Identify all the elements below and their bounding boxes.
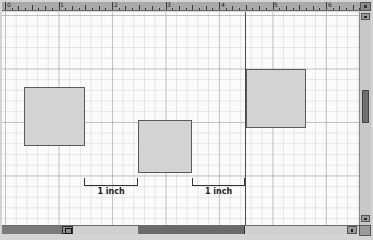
ruler-tick [333,8,334,10]
ruler-corner-button[interactable] [360,2,371,11]
horizontal-ruler[interactable]: 0123456 [2,2,360,11]
ruler-tick [52,8,53,10]
drawing-window: 0123456 1 inch1 inch [0,0,373,240]
ruler-tick [293,8,294,10]
vertical-scrollbar[interactable] [359,12,371,225]
ruler-tick [72,6,73,10]
ruler-tick [25,8,26,10]
ruler-tick [192,5,193,10]
ruler-tick [139,5,140,10]
ruler-tick [85,5,86,10]
ruler-tick [79,8,80,10]
ruler-tick [313,6,314,10]
scroll-down-arrow-icon[interactable] [361,215,370,222]
page-indicator-area [2,226,62,234]
vertical-scroll-thumb[interactable] [362,90,369,123]
ruler-tick [112,2,113,10]
ruler-tick [286,6,287,10]
dimension-bracket[interactable] [192,178,245,186]
ruler-tick [306,8,307,10]
ruler-tick [339,6,340,10]
ruler-label: 6 [328,2,332,8]
ruler-tick [186,8,187,10]
ruler-label: 4 [221,2,225,8]
page-view-button[interactable] [62,226,73,234]
ruler-tick [179,6,180,10]
scroll-up-arrow-icon[interactable] [361,13,370,20]
square-3[interactable] [246,69,306,128]
ruler-tick [12,8,13,10]
ruler-label: 1 [60,2,64,8]
ruler-tick [119,8,120,10]
dimension-label: 1 inch [81,187,141,196]
ruler-label: 5 [274,2,278,8]
ruler-label: 0 [7,2,11,8]
resize-grip-icon[interactable] [359,225,371,236]
ruler-tick [132,8,133,10]
ruler-tick [172,8,173,10]
ruler-tick [212,8,213,10]
ruler-tick [246,5,247,10]
ruler-tick [125,6,126,10]
ruler-tick [92,8,93,10]
ruler-tick [259,6,260,10]
drawing-canvas[interactable]: 1 inch1 inch [2,12,359,225]
dimension-label: 1 inch [189,187,249,196]
ruler-tick [239,8,240,10]
ruler-tick [252,8,253,10]
ruler-tick [152,6,153,10]
ruler-tick [65,8,66,10]
ruler-tick [266,8,267,10]
ruler-tick [353,5,354,10]
ruler-tick [232,6,233,10]
ruler-tick [219,2,220,10]
ruler-tick [5,2,6,10]
ruler-tick [159,8,160,10]
ruler-tick [32,5,33,10]
dimension-bracket[interactable] [84,178,138,186]
ruler-tick [326,2,327,10]
ruler-tick [319,8,320,10]
scroll-right-arrow-icon[interactable] [347,226,357,234]
ruler-tick [226,8,227,10]
ruler-tick [38,8,39,10]
ruler-tick [105,8,106,10]
ruler-tick [45,6,46,10]
ruler-tick [199,8,200,10]
ruler-tick [206,6,207,10]
ruler-tick [279,8,280,10]
square-1[interactable] [24,87,85,146]
ruler-tick [346,8,347,10]
horizontal-scroll-thumb[interactable] [138,226,245,234]
ruler-tick [299,5,300,10]
ruler-tick [99,6,100,10]
square-2[interactable] [138,120,192,173]
ruler-tick [145,8,146,10]
ruler-label: 2 [114,2,118,8]
ruler-tick [18,6,19,10]
ruler-label: 3 [167,2,171,8]
horizontal-scrollbar[interactable] [2,225,359,234]
